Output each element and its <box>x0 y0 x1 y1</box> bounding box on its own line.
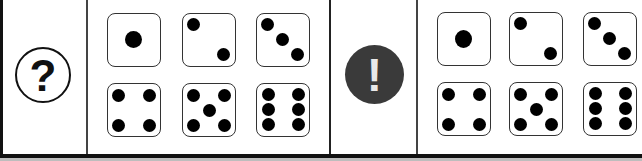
pip <box>125 31 142 48</box>
pip <box>514 17 527 30</box>
pip <box>544 47 557 60</box>
exclamation-mark-icon: ! <box>345 45 404 104</box>
pip <box>217 48 230 61</box>
pip <box>218 89 231 102</box>
pip <box>187 18 200 31</box>
pip <box>262 88 275 101</box>
pip <box>112 89 125 102</box>
pip <box>545 118 558 131</box>
pip <box>545 88 558 101</box>
pip <box>112 119 125 132</box>
pip <box>276 33 289 46</box>
pip <box>589 117 602 130</box>
pip <box>262 103 275 116</box>
left-border <box>0 0 3 158</box>
pip <box>588 17 601 30</box>
die-face-2 <box>509 12 563 66</box>
pip <box>514 118 527 131</box>
question-symbol: ? <box>30 54 57 98</box>
die-face-1 <box>437 12 491 66</box>
pip <box>291 48 304 61</box>
die-face-4 <box>437 82 491 136</box>
pip <box>603 32 616 45</box>
exclamation-symbol: ! <box>367 52 382 98</box>
pip <box>455 30 472 48</box>
pip <box>530 103 543 116</box>
die-face-4 <box>107 83 161 137</box>
pip <box>514 88 527 101</box>
pip <box>619 102 632 115</box>
divider-3 <box>416 0 418 155</box>
dice-comparison-figure: ? ! <box>0 0 642 161</box>
pip <box>619 87 632 100</box>
die-face-5 <box>182 83 236 137</box>
bottom-shadow <box>0 158 642 161</box>
divider-2 <box>329 0 331 155</box>
pip <box>292 118 305 131</box>
pip <box>618 47 631 60</box>
pip <box>143 119 156 132</box>
pip <box>203 104 216 117</box>
die-face-3 <box>256 13 310 67</box>
die-face-6 <box>256 83 310 137</box>
die-face-5 <box>509 82 563 136</box>
pip <box>292 88 305 101</box>
pip <box>589 87 602 100</box>
pip <box>218 119 231 132</box>
die-face-3 <box>583 12 637 66</box>
question-mark-icon: ? <box>15 47 71 103</box>
die-face-2 <box>182 13 236 67</box>
pip <box>292 103 305 116</box>
pip <box>473 88 486 101</box>
pip <box>143 89 156 102</box>
pip <box>589 102 602 115</box>
die-face-6 <box>583 82 637 136</box>
pip <box>261 18 274 31</box>
pip <box>187 119 200 132</box>
pip <box>262 118 275 131</box>
die-face-1 <box>107 13 161 67</box>
pip <box>187 89 200 102</box>
pip <box>442 88 455 101</box>
pip <box>619 117 632 130</box>
pip <box>442 118 455 131</box>
pip <box>473 118 486 131</box>
divider-1 <box>86 0 88 155</box>
